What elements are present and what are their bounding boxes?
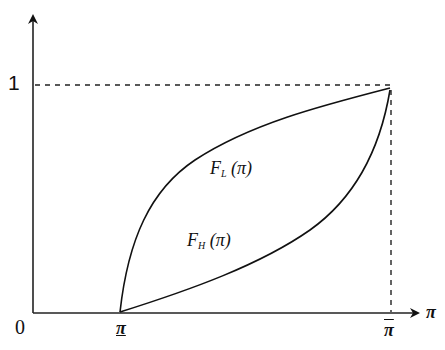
label-f-low-name: F bbox=[210, 158, 221, 178]
label-f-high-arg: (π) bbox=[210, 230, 231, 250]
label-f-low-sub: L bbox=[221, 168, 227, 179]
x-axis-label: π bbox=[426, 302, 436, 323]
label-f-high: FH (π) bbox=[187, 230, 231, 251]
label-f-high-sub: H bbox=[198, 240, 205, 251]
x-tick-upper-pi: π bbox=[384, 320, 394, 341]
curve-f-high bbox=[120, 90, 390, 312]
label-f-high-name: F bbox=[187, 230, 198, 250]
cdf-diagram: 1 0 π π π FL (π) FH (π) bbox=[0, 0, 445, 350]
x-tick-lower-pi: π bbox=[116, 318, 126, 339]
curve-f-low bbox=[120, 88, 390, 312]
label-f-low: FL (π) bbox=[210, 158, 252, 179]
label-f-low-arg: (π) bbox=[231, 158, 252, 178]
y-tick-1: 1 bbox=[8, 71, 20, 95]
origin-label: 0 bbox=[15, 316, 25, 339]
